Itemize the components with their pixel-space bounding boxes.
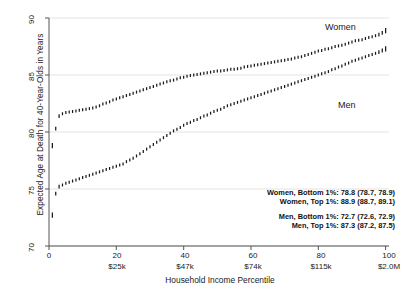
annotation-line: Men, Top 1%: 87.3 (87.2, 87.5) [190, 222, 395, 231]
chart-figure: Expected Age at Death for 40-Year-Olds i… [0, 0, 415, 297]
y-tick-label: 80 [27, 123, 36, 145]
x-tick-sublabel: $25k [92, 262, 142, 271]
x-tick-sublabel: $115k [296, 262, 346, 271]
series-points-women [52, 28, 385, 148]
x-tick-label: 0 [27, 251, 71, 260]
x-tick-label: 20 [95, 251, 139, 260]
y-tick-label: 90 [27, 9, 36, 31]
x-tick-sublabel: $74k [228, 262, 278, 271]
x-tick-sublabel: $47k [160, 262, 210, 271]
x-tick-label: 100 [367, 251, 411, 260]
y-axis-title: Expected Age at Death for 40-Year-Olds i… [36, 5, 45, 245]
x-tick-label: 60 [231, 251, 275, 260]
x-axis-title: Household Income Percentile [40, 275, 400, 285]
y-tick-label: 85 [27, 66, 36, 88]
annotation-line: Women, Top 1%: 88.9 (88.7, 89.1) [190, 198, 395, 207]
x-tick-label: 80 [299, 251, 343, 260]
x-tick-sublabel: $2.0M [364, 262, 414, 271]
annotation-block: Women, Bottom 1%: 78.8 (78.7, 78.9) Wome… [190, 189, 395, 230]
x-tick-label: 40 [163, 251, 207, 260]
y-tick-label: 75 [27, 180, 36, 202]
series-label-men: Men [338, 100, 356, 110]
series-label-women: Women [325, 22, 356, 32]
